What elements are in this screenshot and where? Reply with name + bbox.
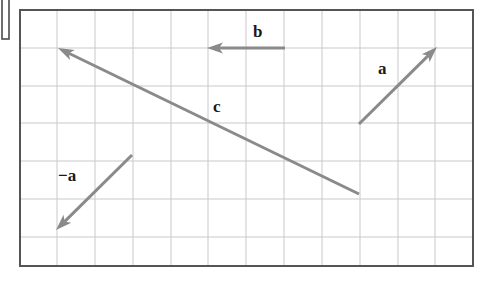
- vector-label-a: a: [378, 60, 387, 77]
- figure-canvas: a b c −a: [0, 0, 480, 282]
- vector-diagram-svg: [0, 0, 480, 282]
- vector-label-b: b: [253, 23, 262, 40]
- vector-shaft-a: [359, 55, 428, 124]
- vector-label-minus-a: −a: [58, 167, 76, 184]
- vector-label-c: c: [213, 98, 221, 115]
- vector-shaft-minus-a: [65, 155, 132, 222]
- cropped-box-fragment: [2, 0, 9, 39]
